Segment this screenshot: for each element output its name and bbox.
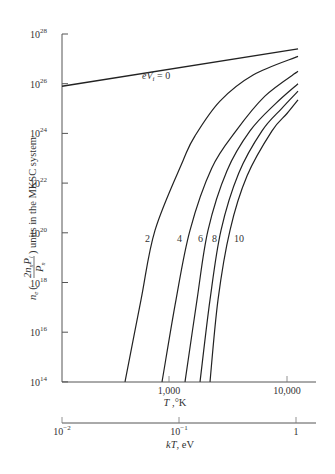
kt-tick-label: 10−2 [53,424,71,437]
y-tick-label: 1028 [30,27,48,40]
x-tick-label: 1,000 [158,385,181,396]
curve-4 [162,71,298,382]
curve-label-4: 4 [177,233,182,244]
x-ticks: 1,00010,000 [158,376,301,396]
curve-2 [125,56,298,382]
svg-text:) units in the MKSC system: ) units in the MKSC system [27,137,39,254]
chart: 10141016101810201022102410261028 1,00010… [0,0,335,474]
kt-tick-label: 1 [294,426,299,437]
svg-text:Pn: Pn [34,263,46,273]
curves [62,49,298,382]
curve-10 [210,100,298,382]
x-tick-label: 10,000 [273,385,301,396]
curve-label-eVi0: eVi = 0 [142,70,170,83]
y-tick-label: 1016 [30,325,48,338]
curve-eVi0 [62,49,298,86]
x-axis-title: T ,°K [164,397,187,408]
curve-label-2: 2 [145,233,150,244]
curve-label-8: 8 [212,233,217,244]
kt-tick-label: 10−1 [170,424,188,437]
svg-text:2nnPi: 2nnPi [22,256,34,278]
y-tick-label: 1014 [30,375,48,388]
y-tick-label: 1026 [30,77,48,90]
kt-axis: 10−210−11 [53,417,316,437]
curve-label-6: 6 [198,233,203,244]
curve-label-10: 10 [234,233,244,244]
kt-axis-title: kT, eV [166,439,194,450]
